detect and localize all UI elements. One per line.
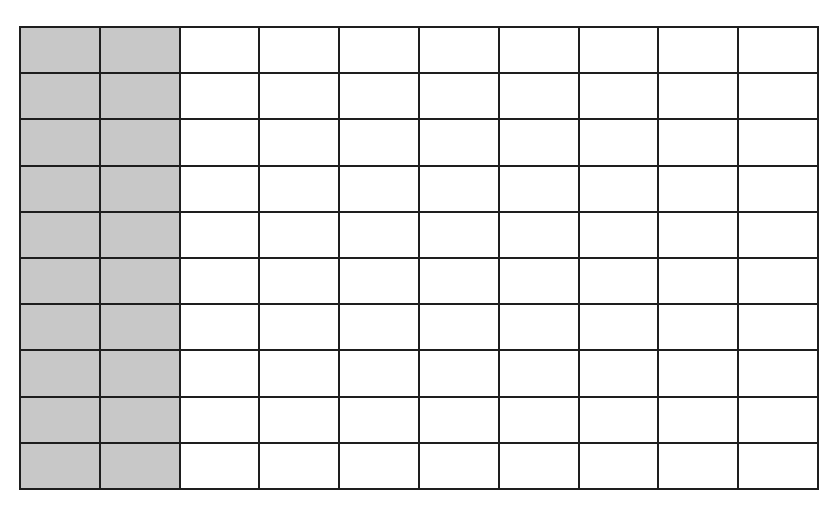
- grid-cell: [580, 305, 660, 351]
- grid-cell: [340, 213, 420, 259]
- grid-cell: [580, 444, 660, 490]
- grid-cell: [500, 351, 580, 397]
- grid-cell: [739, 74, 819, 120]
- grid-cell: [500, 305, 580, 351]
- grid-cell: [580, 259, 660, 305]
- grid-cell: [340, 74, 420, 120]
- grid-cell: [659, 28, 739, 74]
- grid-cell: [181, 74, 261, 120]
- grid-cell-shaded: [21, 444, 101, 490]
- grid-cell-shaded: [21, 28, 101, 74]
- grid-cell: [500, 120, 580, 166]
- grid-cell: [580, 28, 660, 74]
- grid-cell: [580, 120, 660, 166]
- grid-cell-shaded: [101, 398, 181, 444]
- grid-cell: [260, 28, 340, 74]
- grid-cell: [580, 74, 660, 120]
- grid-cell-shaded: [21, 305, 101, 351]
- grid-cell: [340, 28, 420, 74]
- grid-cell: [420, 120, 500, 166]
- grid-cell-shaded: [21, 213, 101, 259]
- grid-cell: [659, 398, 739, 444]
- grid-cell: [181, 120, 261, 166]
- grid-cell-shaded: [21, 259, 101, 305]
- grid-cell: [659, 351, 739, 397]
- grid-cell-shaded: [21, 167, 101, 213]
- grid-cell-shaded: [101, 305, 181, 351]
- grid-cell: [340, 398, 420, 444]
- grid-cell: [420, 213, 500, 259]
- grid-cell-shaded: [101, 213, 181, 259]
- grid-cell: [580, 398, 660, 444]
- grid-cell: [420, 351, 500, 397]
- grid-cell: [739, 259, 819, 305]
- grid-cell: [739, 167, 819, 213]
- grid-cell: [260, 259, 340, 305]
- grid-cell: [181, 213, 261, 259]
- grid-cell: [260, 444, 340, 490]
- grid-cell-shaded: [101, 259, 181, 305]
- grid-cell: [659, 213, 739, 259]
- grid-cell: [659, 259, 739, 305]
- grid-cell: [500, 167, 580, 213]
- grid-cell: [420, 398, 500, 444]
- grid-cell: [420, 167, 500, 213]
- grid-cell: [500, 213, 580, 259]
- grid-cell: [580, 213, 660, 259]
- grid-cell: [739, 120, 819, 166]
- grid-cell: [580, 351, 660, 397]
- grid-cell: [500, 74, 580, 120]
- grid-cell: [500, 398, 580, 444]
- grid-cell: [420, 305, 500, 351]
- grid-cell-shaded: [101, 351, 181, 397]
- hundred-grid: [19, 26, 819, 490]
- grid-cell: [181, 444, 261, 490]
- grid-cell: [181, 28, 261, 74]
- grid-cell: [340, 167, 420, 213]
- grid-cell: [181, 259, 261, 305]
- grid-cell-shaded: [101, 74, 181, 120]
- grid-cell: [260, 74, 340, 120]
- grid-cell: [580, 167, 660, 213]
- grid-cell: [420, 74, 500, 120]
- grid-cell: [659, 444, 739, 490]
- grid-cell: [260, 167, 340, 213]
- grid-cell: [659, 167, 739, 213]
- grid-cell: [340, 351, 420, 397]
- grid-cell: [500, 444, 580, 490]
- grid-cell: [739, 444, 819, 490]
- grid-cell: [260, 213, 340, 259]
- grid-cell-shaded: [21, 398, 101, 444]
- grid-cell-shaded: [21, 120, 101, 166]
- grid-cell: [739, 351, 819, 397]
- grid-cell-shaded: [101, 28, 181, 74]
- grid-cell-shaded: [21, 74, 101, 120]
- grid-cell-shaded: [101, 167, 181, 213]
- grid-cell: [181, 167, 261, 213]
- diagram-canvas: [0, 0, 837, 514]
- grid-cell: [181, 398, 261, 444]
- grid-cell-shaded: [101, 120, 181, 166]
- grid-cell: [340, 305, 420, 351]
- grid-cell: [340, 444, 420, 490]
- grid-cell: [181, 351, 261, 397]
- grid-cell: [260, 398, 340, 444]
- grid-cell: [420, 259, 500, 305]
- grid-cell: [340, 259, 420, 305]
- grid-cell: [260, 120, 340, 166]
- grid-cell: [420, 28, 500, 74]
- grid-cell: [260, 305, 340, 351]
- grid-cell: [659, 120, 739, 166]
- grid-cell: [500, 28, 580, 74]
- grid-cell: [739, 213, 819, 259]
- grid-cell: [340, 120, 420, 166]
- grid-cell: [659, 305, 739, 351]
- grid-cell: [659, 74, 739, 120]
- grid-cell: [500, 259, 580, 305]
- grid-cell: [181, 305, 261, 351]
- grid-cell: [739, 398, 819, 444]
- grid-cell: [739, 305, 819, 351]
- grid-cell: [260, 351, 340, 397]
- grid-cell: [420, 444, 500, 490]
- grid-cell-shaded: [21, 351, 101, 397]
